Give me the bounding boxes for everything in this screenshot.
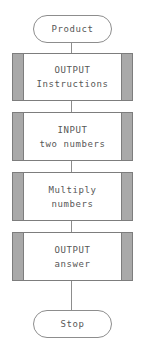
connector-multiply-numbers-to-output-answer — [71, 221, 72, 232]
flowchart-canvas: Product OUTPUT Instructions INPUT two nu… — [0, 0, 144, 352]
node-multiply-numbers-label-line1: Multiply — [48, 183, 96, 197]
connector-output-instructions-to-input-two-numbers — [71, 101, 72, 112]
node-output-instructions[interactable]: OUTPUT Instructions — [12, 53, 133, 101]
predefined-process-right-bar-icon — [121, 113, 132, 160]
node-stop-label: Stop — [60, 319, 84, 330]
node-output-answer-label-line2: answer — [54, 257, 90, 271]
node-output-answer-body: OUTPUT answer — [24, 233, 121, 280]
connector-input-two-numbers-to-multiply-numbers — [71, 161, 72, 172]
node-output-answer[interactable]: OUTPUT answer — [12, 232, 133, 281]
predefined-process-right-bar-icon — [121, 233, 132, 280]
predefined-process-left-bar-icon — [13, 54, 24, 100]
node-start-label: Product — [51, 24, 93, 35]
connector-output-answer-to-stop — [71, 281, 72, 310]
node-multiply-numbers-label-line2: numbers — [51, 197, 93, 211]
predefined-process-left-bar-icon — [13, 233, 24, 280]
node-input-two-numbers-body: INPUT two numbers — [24, 113, 121, 160]
connector-start-to-output-instructions — [71, 42, 72, 53]
node-output-instructions-label-line2: Instructions — [36, 77, 108, 91]
node-input-two-numbers-label-line2: two numbers — [39, 137, 105, 151]
node-input-two-numbers-label-line1: INPUT — [57, 123, 87, 137]
predefined-process-right-bar-icon — [121, 54, 132, 100]
predefined-process-left-bar-icon — [13, 113, 24, 160]
node-stop-terminator[interactable]: Stop — [33, 310, 112, 338]
node-multiply-numbers[interactable]: Multiply numbers — [12, 172, 133, 221]
node-output-answer-label-line1: OUTPUT — [54, 243, 90, 257]
node-multiply-numbers-body: Multiply numbers — [24, 173, 121, 220]
node-output-instructions-label-line1: OUTPUT — [54, 63, 90, 77]
node-start-terminator[interactable]: Product — [33, 15, 112, 43]
predefined-process-left-bar-icon — [13, 173, 24, 220]
node-output-instructions-body: OUTPUT Instructions — [24, 54, 121, 100]
node-input-two-numbers[interactable]: INPUT two numbers — [12, 112, 133, 161]
predefined-process-right-bar-icon — [121, 173, 132, 220]
